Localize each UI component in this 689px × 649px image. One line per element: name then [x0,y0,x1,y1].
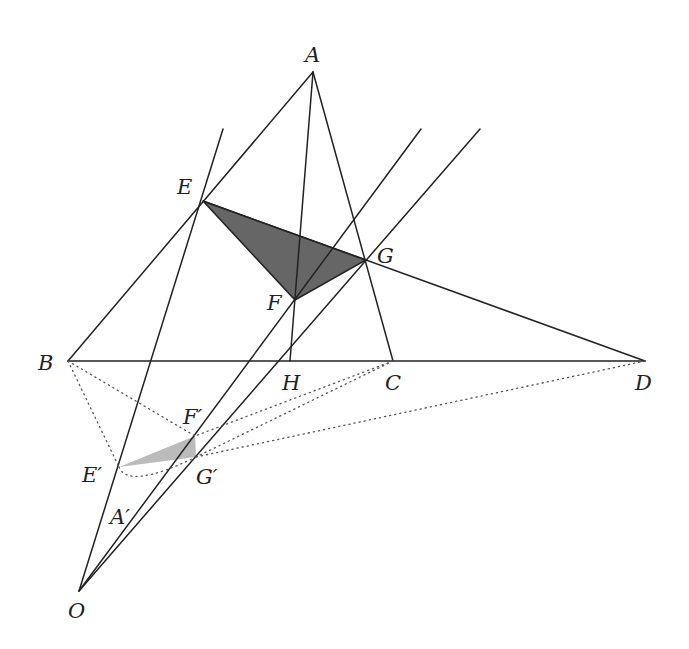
line-ac [313,72,393,361]
label-o: O [68,599,85,623]
line-ah [290,72,313,361]
dotted-d-g-prime [196,361,645,457]
line-ab [68,72,313,361]
label-a-prime: A′ [108,505,130,529]
ray-oe [79,129,223,591]
label-g-prime: G′ [196,465,218,489]
label-b: B [37,351,53,375]
label-d: D [634,371,652,395]
ray-of [79,129,421,591]
line-ed [203,201,645,361]
label-f-prime: F′ [182,405,203,429]
ray-og [79,129,480,591]
label-e-prime: E′ [81,463,102,487]
label-c: C [385,371,401,395]
label-g: G [377,244,394,268]
label-h: H [281,371,301,395]
label-a: A [303,43,320,67]
geometry-diagram: A B C D E F G H O E′ F′ G′ A′ [0,0,689,649]
triangle-e-prime-f-prime-g-prime-fill [119,436,196,467]
label-e: E [176,175,192,199]
dotted-b-e-prime [68,361,119,467]
label-f: F [266,291,283,315]
